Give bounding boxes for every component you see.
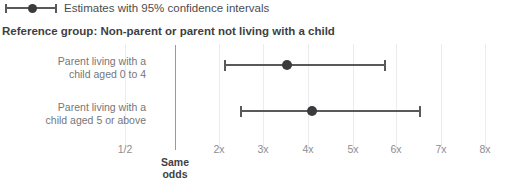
- category-label-0-line1: Parent living with a: [58, 55, 146, 67]
- category-label-1-line2: child aged 5 or above: [46, 114, 146, 126]
- legend-dot-icon: [28, 4, 37, 13]
- category-label-0-line2: child aged 0 to 4: [69, 68, 146, 80]
- error-bar-cap-high: [419, 106, 421, 117]
- x-axis-origin-label: Same odds: [140, 156, 210, 180]
- legend-cap-right: [55, 4, 57, 13]
- error-bar-cap-low: [240, 106, 242, 117]
- legend-label: Estimates with 95% confidence intervals: [64, 0, 269, 16]
- estimate-marker: [307, 106, 317, 116]
- category-label-1: Parent living with a child aged 5 or abo…: [0, 101, 146, 126]
- category-label-0: Parent living with a child aged 0 to 4: [0, 55, 146, 80]
- legend-cap-left: [5, 4, 7, 13]
- forest-plot-chart: Estimates with 95% confidence intervals …: [0, 0, 510, 183]
- error-bar-line: [240, 110, 421, 112]
- estimate-marker: [282, 60, 292, 70]
- chart-legend: Estimates with 95% confidence intervals: [0, 0, 510, 16]
- x-axis: 1/2 2x 3x 4x 5x 6x 7x 8x Same odds: [0, 143, 510, 183]
- error-bar-cap-low: [224, 60, 226, 71]
- error-bar-row-0: [224, 59, 386, 71]
- origin-label-line1: Same: [161, 156, 189, 168]
- error-bar-line: [224, 64, 386, 66]
- category-label-1-line1: Parent living with a: [58, 101, 146, 113]
- x-axis-tick-0: 1/2: [90, 143, 160, 156]
- reference-group-subtitle: Reference group: Non-parent or parent no…: [2, 24, 335, 39]
- gridline: [396, 44, 397, 150]
- reference-line: [175, 45, 176, 150]
- x-axis-tick-8x: 8x: [450, 143, 510, 156]
- gridline: [441, 44, 442, 150]
- origin-label-line2: odds: [162, 168, 187, 180]
- gridline: [485, 44, 486, 150]
- error-bar-symbol-icon: [5, 7, 57, 9]
- error-bar-cap-high: [384, 60, 386, 71]
- plot-area: Parent living with a child aged 0 to 4 P…: [0, 44, 510, 151]
- error-bar-row-1: [240, 105, 421, 117]
- gridline: [219, 44, 220, 150]
